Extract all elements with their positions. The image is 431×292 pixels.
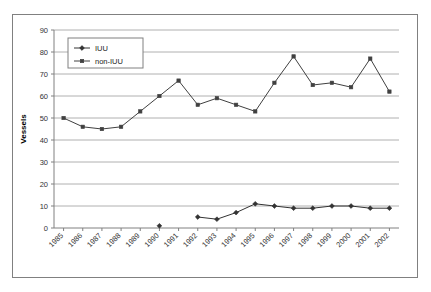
- x-tick-label: 1986: [66, 231, 84, 249]
- y-axis-title: Vessels: [19, 114, 28, 144]
- data-point-marker: [196, 103, 199, 106]
- x-tick-label: 1991: [162, 231, 180, 249]
- data-point-marker: [234, 103, 237, 106]
- y-tick-label: 0: [44, 224, 48, 233]
- x-tick-label: 1998: [296, 231, 314, 249]
- x-tick-label: 1992: [181, 231, 199, 249]
- data-point-marker: [62, 116, 65, 119]
- data-point-marker: [388, 90, 391, 93]
- y-axis-ticks-group: 0102030405060708090: [40, 26, 54, 233]
- y-tick-label: 90: [40, 26, 48, 35]
- x-axis-ticks-group: 1985198619871988198919901991199219931994…: [47, 228, 391, 249]
- x-tick-label: 2002: [373, 231, 391, 249]
- chart-legend: IUUnon-IUU: [68, 38, 143, 68]
- chart-svg: 0102030405060708090 19851986198719881989…: [0, 0, 431, 292]
- chart-plot-canvas: 0102030405060708090 19851986198719881989…: [0, 0, 431, 292]
- legend-label: IUU: [95, 44, 108, 53]
- x-tick-label: 1985: [47, 231, 65, 249]
- data-point-marker: [119, 125, 122, 128]
- x-tick-label: 2001: [354, 231, 372, 249]
- data-point-marker: [177, 79, 180, 82]
- y-tick-label: 70: [40, 70, 48, 79]
- data-point-marker: [215, 97, 218, 100]
- x-tick-label: 1993: [200, 231, 218, 249]
- x-tick-label: 1990: [143, 231, 161, 249]
- data-point-marker: [369, 57, 372, 60]
- y-tick-label: 50: [40, 114, 48, 123]
- y-tick-label: 60: [40, 92, 48, 101]
- chart-figure: 0102030405060708090 19851986198719881989…: [0, 0, 431, 292]
- y-tick-label: 40: [40, 136, 48, 145]
- x-tick-label: 1994: [219, 231, 237, 249]
- legend-marker-square-icon: [80, 59, 83, 62]
- data-point-marker: [311, 83, 314, 86]
- x-tick-label: 1999: [315, 231, 333, 249]
- x-tick-label: 1988: [104, 231, 122, 249]
- x-tick-label: 1987: [85, 231, 103, 249]
- data-point-marker: [139, 110, 142, 113]
- data-point-marker: [292, 55, 295, 58]
- legend-label: non-IUU: [95, 57, 123, 66]
- data-point-marker: [273, 81, 276, 84]
- x-tick-label: 1995: [239, 231, 257, 249]
- data-point-marker: [81, 125, 84, 128]
- x-tick-label: 1997: [277, 231, 295, 249]
- x-tick-label: 1989: [124, 231, 142, 249]
- data-point-marker: [158, 94, 161, 97]
- data-point-marker: [254, 110, 257, 113]
- y-tick-label: 10: [40, 202, 48, 211]
- data-point-marker: [349, 86, 352, 89]
- x-tick-label: 1996: [258, 231, 276, 249]
- y-tick-label: 30: [40, 158, 48, 167]
- x-tick-label: 2000: [334, 231, 352, 249]
- data-point-marker: [100, 127, 103, 130]
- y-tick-label: 80: [40, 48, 48, 57]
- y-tick-label: 20: [40, 180, 48, 189]
- data-point-marker: [330, 81, 333, 84]
